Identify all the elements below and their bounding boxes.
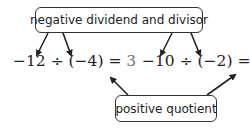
positive-quotient-label: positive quotient [115,95,217,122]
bottom-label-text: positive quotient [115,102,216,116]
dividend: −12 [13,52,46,70]
division-operator: ÷ [46,52,69,70]
dividend: −10 [142,52,175,70]
negative-dividend-divisor-label: negative dividend and divisor [35,7,203,33]
arrow-to-result-right [207,75,235,95]
equals-sign: = [104,52,127,70]
arrow-to-result-left [111,78,128,95]
quotient: 3 [126,52,136,70]
division-operator: ÷ [175,52,198,70]
top-label-text: negative dividend and divisor [30,13,208,27]
divisor: (−4) [69,52,104,70]
equals-sign: = [233,52,250,70]
divisor: (−2) [198,52,233,70]
equation-left: −12 ÷ (−4) = 3 [13,52,136,70]
equation-right: −10 ÷ (−2) = 5 [142,52,250,70]
